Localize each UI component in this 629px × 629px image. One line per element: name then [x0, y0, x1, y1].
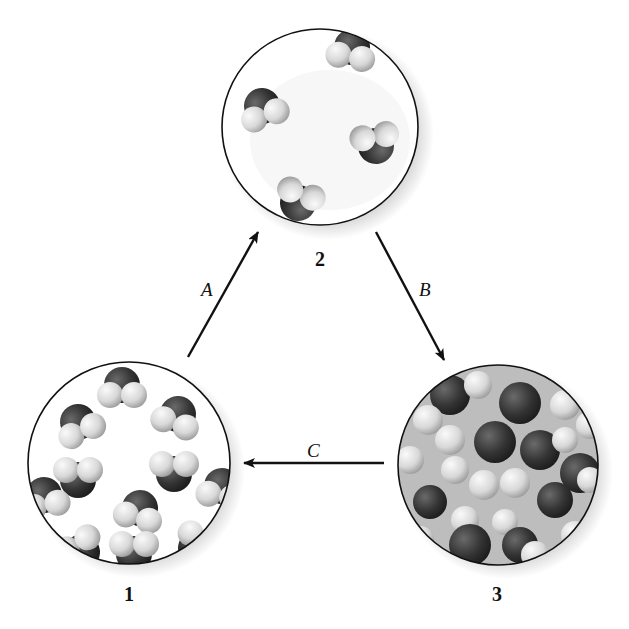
transition-label-a: A	[199, 279, 213, 300]
arrow-a	[188, 232, 258, 357]
state-label-1: 1	[124, 583, 134, 605]
arrow-b	[376, 232, 444, 360]
transition-label-b: B	[419, 279, 431, 300]
state-1-solid-view	[16, 362, 249, 580]
phase-cycle-diagram: A B C 2 1 3	[0, 0, 629, 629]
state-label-2: 2	[315, 248, 325, 270]
transition-label-c: C	[307, 440, 320, 461]
state-label-3: 3	[492, 583, 502, 605]
